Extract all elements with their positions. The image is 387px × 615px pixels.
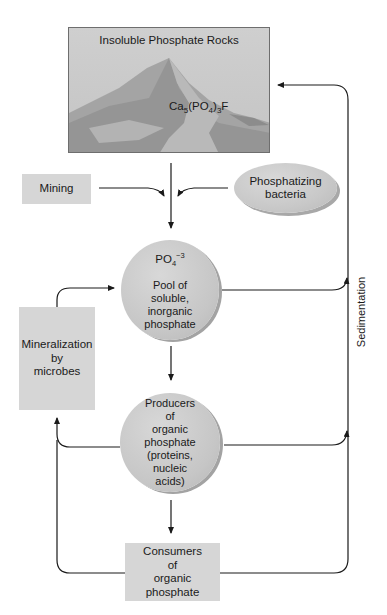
insoluble-phosphate-rocks-panel: Insoluble Phosphate Rocks Ca5(PO4)3F: [68, 27, 270, 153]
pool-to-sedimentation-arrow: [222, 278, 347, 290]
mining-box: Mining: [22, 174, 91, 204]
soluble-phosphate-pool-circle: PO4−3 Pool of soluble, inorganic phospha…: [121, 240, 219, 340]
producers-line: of: [165, 410, 174, 423]
bacteria-label-line1: Phosphatizing: [249, 175, 321, 189]
mining-arrow: [99, 188, 164, 196]
rocks-title: Insoluble Phosphate Rocks: [69, 34, 269, 46]
consumers-line: Consumers: [143, 545, 202, 559]
consumers-line: of: [168, 559, 178, 573]
producers-line: organic: [152, 423, 188, 436]
consumers-to-sedimentation-line: [220, 440, 348, 573]
producers-to-mineralization-arrow: [57, 418, 120, 447]
consumers-box: Consumers of organic phosphate: [125, 543, 220, 601]
consumers-line: phosphate: [146, 586, 200, 600]
pool-line: phosphate: [144, 318, 195, 331]
mineralization-line: by: [51, 352, 63, 366]
mineralization-to-pool-arrow: [57, 288, 114, 307]
producers-line: Producers: [145, 397, 195, 410]
producers-to-sedimentation-arrow: [224, 431, 347, 445]
pool-line: soluble,: [151, 292, 189, 305]
sedimentation-label: Sedimentation: [355, 272, 369, 352]
fluorapatite-formula: Ca5(PO4)3F: [169, 100, 228, 115]
producers-line: nucleic: [153, 462, 187, 475]
producers-line: (proteins,: [147, 449, 193, 462]
bacteria-arrow: [178, 188, 228, 196]
mineralization-line: Mineralization: [22, 338, 93, 352]
producers-line: phosphate: [144, 436, 195, 449]
consumers-line: organic: [154, 572, 192, 586]
producers-circle: Producers of organic phosphate (proteins…: [120, 393, 220, 492]
sedimentation-to-rocks-arrow: [278, 85, 348, 440]
mineralization-line: microbes: [34, 365, 81, 379]
mining-label: Mining: [40, 182, 74, 196]
mineralization-box: Mineralization by microbes: [19, 307, 95, 410]
consumers-to-mineralization-line: [57, 440, 125, 573]
phosphatizing-bacteria-ellipse: Phosphatizing bacteria: [234, 163, 337, 213]
producers-line: acids): [155, 475, 184, 488]
mountain-illustration: [69, 28, 270, 153]
pool-line: inorganic: [148, 305, 193, 318]
phosphate-ion-label: PO4−3: [155, 249, 184, 270]
pool-line: Pool of: [153, 279, 187, 292]
bacteria-label-line2: bacteria: [249, 188, 321, 202]
